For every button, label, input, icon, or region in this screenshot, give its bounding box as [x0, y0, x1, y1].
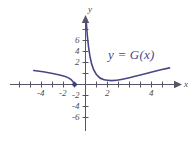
- y-tick-label-4: 4: [75, 47, 80, 56]
- x-tick-label-2: 2: [105, 89, 110, 98]
- x-axis-label: x: [184, 80, 188, 89]
- y-tick-label--4: -4: [72, 102, 80, 111]
- y-tick-label--6: -6: [72, 113, 80, 122]
- y-tick-label-6: 6: [75, 36, 80, 45]
- graph-figure: -4 -2 2 4 6 4 2 -2 -4 -6 x y y = G(x): [0, 0, 191, 142]
- y-tick-label-2: 2: [75, 58, 80, 67]
- x-tick-label--2: -2: [59, 89, 67, 98]
- coordinate-plane: [0, 0, 191, 142]
- x-tick-label--4: -4: [37, 89, 45, 98]
- y-tick-label--2: -2: [72, 91, 80, 100]
- x-tick-label-4: 4: [149, 89, 154, 98]
- y-axis-label: y: [88, 5, 92, 14]
- x-axis-arrow-icon: [174, 81, 182, 88]
- y-axis-arrow-icon: [82, 15, 89, 23]
- endpoint-dot: [72, 82, 77, 87]
- function-label: y = G(x): [108, 48, 154, 61]
- curve-left-branch: [34, 71, 75, 85]
